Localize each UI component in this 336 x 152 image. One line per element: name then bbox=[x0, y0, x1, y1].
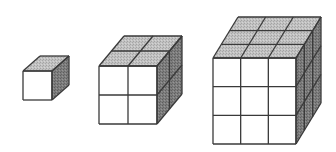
cube-2 bbox=[99, 36, 182, 124]
cube-diagram bbox=[0, 0, 336, 152]
cube-1 bbox=[23, 56, 69, 100]
front-face bbox=[213, 58, 296, 144]
cubes-layer bbox=[23, 17, 321, 144]
cube-diagram-canvas bbox=[0, 0, 336, 152]
front-face bbox=[23, 71, 52, 100]
cube-3 bbox=[213, 17, 321, 144]
